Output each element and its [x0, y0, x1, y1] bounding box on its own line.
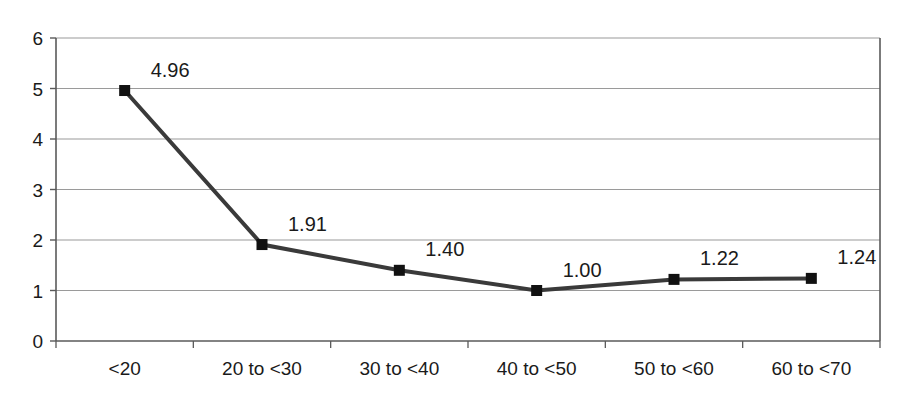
- category-label-group: <2020 to <3030 to <4040 to <5050 to <606…: [109, 358, 852, 379]
- gridlines-group: [56, 38, 880, 341]
- x-axis-category-label: 30 to <40: [359, 358, 439, 379]
- y-axis-tick-label: 0: [32, 331, 43, 352]
- x-axis-category-label: 40 to <50: [497, 358, 577, 379]
- data-point-marker: [531, 285, 542, 296]
- data-point-label: 1.24: [837, 246, 876, 268]
- x-tick-group: [56, 341, 880, 348]
- data-point-marker: [669, 274, 680, 285]
- x-axis-category-label: 50 to <60: [634, 358, 714, 379]
- x-axis-category-label: 60 to <70: [771, 358, 851, 379]
- data-point-label: 1.40: [425, 238, 464, 260]
- data-point-marker: [257, 239, 268, 250]
- data-point-marker: [806, 273, 817, 284]
- data-point-marker: [394, 265, 405, 276]
- chart-canvas: 0123456 4.961.911.401.001.221.24 <2020 t…: [0, 0, 906, 404]
- line-chart: 0123456 4.961.911.401.001.221.24 <2020 t…: [0, 0, 906, 404]
- y-axis-tick-label: 1: [32, 281, 43, 302]
- y-axis-tick-label: 5: [32, 79, 43, 100]
- x-axis-category-label: <20: [109, 358, 141, 379]
- y-axis-tick-label: 2: [32, 230, 43, 251]
- data-point-label: 1.91: [288, 213, 327, 235]
- data-point-label: 1.22: [700, 247, 739, 269]
- y-tick-group: 0123456: [32, 28, 56, 352]
- x-axis-category-label: 20 to <30: [222, 358, 302, 379]
- data-point-label: 1.00: [563, 259, 602, 281]
- data-point-label: 4.96: [151, 59, 190, 81]
- y-axis-tick-label: 4: [32, 129, 43, 150]
- y-axis-tick-label: 6: [32, 28, 43, 49]
- data-point-marker: [119, 85, 130, 96]
- y-axis-tick-label: 3: [32, 180, 43, 201]
